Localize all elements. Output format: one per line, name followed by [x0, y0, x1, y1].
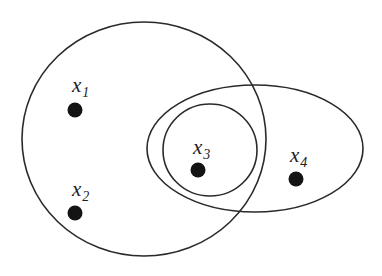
node-label: x3 [192, 135, 210, 162]
large-circle-outline [22, 22, 266, 256]
right-ellipse-outline [147, 85, 363, 212]
node-dot [289, 172, 304, 187]
node-x3: x3 [191, 135, 211, 178]
node-label: x1 [71, 73, 89, 100]
node-dot [191, 163, 206, 178]
node-label-subscript: 3 [202, 147, 210, 162]
node-dot [68, 103, 83, 118]
node-x4: x4 [289, 143, 308, 187]
node-label-subscript: 4 [300, 155, 307, 170]
node-label-subscript: 2 [82, 189, 89, 204]
node-dot [68, 206, 83, 221]
node-x1: x1 [68, 73, 90, 118]
node-label-base: x [71, 177, 82, 201]
set-diagram: x1x2x3x4 [0, 0, 382, 276]
node-label-base: x [192, 135, 203, 159]
node-label: x2 [71, 177, 89, 204]
node-label: x4 [289, 143, 307, 170]
node-label-base: x [289, 143, 300, 167]
node-label-base: x [71, 73, 82, 97]
node-label-subscript: 1 [82, 85, 89, 100]
node-x2: x2 [68, 177, 90, 221]
